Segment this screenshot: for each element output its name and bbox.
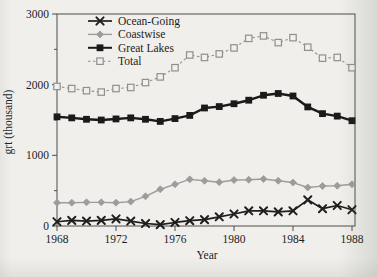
total-marker <box>246 35 252 41</box>
total-marker <box>54 83 60 89</box>
great-lakes-marker <box>304 104 311 111</box>
great-lakes-marker <box>54 113 61 120</box>
legend-label-total: Total <box>118 55 141 67</box>
x-tick-label: 1988 <box>341 233 364 245</box>
x-tick-label: 1972 <box>105 233 128 245</box>
x-tick-label: 1980 <box>223 233 246 245</box>
coastwise-marker <box>201 177 208 184</box>
great-lakes-marker <box>201 105 208 112</box>
x-tick-label: 1984 <box>282 233 305 245</box>
legend-label-coastwise: Coastwise <box>118 28 165 40</box>
great-lakes-marker <box>142 116 149 123</box>
coastwise-marker <box>142 193 149 200</box>
ocean-going-marker <box>304 196 311 203</box>
coastwise-marker <box>54 199 61 206</box>
total-marker <box>83 87 89 93</box>
coastwise-marker <box>245 176 252 183</box>
line-chart-figure: 0100020003000196819721976198019841988 Oc… <box>0 0 377 277</box>
coastwise-marker <box>334 182 341 189</box>
great-lakes-marker <box>98 117 105 124</box>
x-tick-label: 1968 <box>46 233 69 245</box>
great-lakes-marker <box>186 112 193 119</box>
great-lakes-marker <box>245 97 252 104</box>
great-lakes-marker <box>113 116 120 123</box>
coastwise-marker <box>304 184 311 191</box>
y-axis-title: grt (thousand) <box>2 89 15 154</box>
y-tick-label: 3000 <box>26 8 49 20</box>
coastwise-marker <box>113 199 120 206</box>
total-marker <box>216 51 222 57</box>
legend-item-coastwise: Coastwise <box>88 28 165 40</box>
total-marker <box>98 89 104 95</box>
great-lakes-marker <box>231 100 238 107</box>
great-lakes-marker <box>275 90 282 97</box>
coastwise-marker <box>172 181 179 188</box>
coastwise-marker <box>349 181 356 188</box>
total-marker <box>69 85 75 91</box>
total-marker <box>231 45 237 51</box>
great-lakes-marker <box>349 117 356 124</box>
great-lakes-marker <box>216 103 223 110</box>
coastwise-marker <box>290 179 297 186</box>
coastwise-marker <box>319 183 326 190</box>
total-marker <box>334 54 340 60</box>
legend-item-great-lakes: Great Lakes <box>88 42 174 54</box>
great-lakes-marker <box>83 116 90 123</box>
coastwise-marker <box>186 176 193 183</box>
legend-great-lakes-marker <box>97 44 104 51</box>
total-marker <box>172 65 178 71</box>
total-marker <box>157 74 163 80</box>
coastwise-marker <box>275 177 282 184</box>
great-lakes-marker <box>260 92 267 99</box>
legend-label-ocean-going: Ocean-Going <box>118 15 180 28</box>
total-marker <box>201 54 207 60</box>
legend-coastwise-marker <box>97 31 104 38</box>
legend-label-great-lakes: Great Lakes <box>118 42 174 54</box>
great-lakes-marker <box>172 115 179 122</box>
total-marker <box>305 44 311 50</box>
total-marker <box>142 79 148 85</box>
coastwise-marker <box>83 199 90 206</box>
y-tick-label: 0 <box>43 220 49 232</box>
total-marker <box>319 55 325 61</box>
x-axis-title: Year <box>196 249 217 261</box>
total-marker <box>275 39 281 45</box>
great-lakes-marker <box>319 110 326 117</box>
coastwise-marker <box>231 177 238 184</box>
great-lakes-marker <box>127 114 134 121</box>
total-marker <box>349 65 355 71</box>
y-tick-label: 1000 <box>26 149 49 161</box>
legend-item-total: Total <box>88 55 141 67</box>
legend-item-ocean-going: Ocean-Going <box>88 15 180 28</box>
total-marker <box>260 33 266 39</box>
total-marker <box>290 34 296 40</box>
great-lakes-marker <box>290 93 297 100</box>
total-marker <box>187 52 193 58</box>
coastwise-marker <box>216 179 223 186</box>
coastwise-marker <box>68 199 75 206</box>
great-lakes-marker <box>68 114 75 121</box>
total-marker <box>113 85 119 91</box>
total-marker <box>128 84 134 90</box>
legend-total-marker <box>97 58 103 64</box>
great-lakes-marker <box>157 118 164 125</box>
y-tick-label: 2000 <box>26 79 49 91</box>
x-tick-label: 1976 <box>164 233 187 245</box>
chart-canvas: 0100020003000196819721976198019841988 Oc… <box>0 0 377 277</box>
great-lakes-marker <box>334 113 341 120</box>
coastwise-marker <box>127 198 134 205</box>
coastwise-marker <box>98 199 105 206</box>
coastwise-marker <box>157 186 164 193</box>
coastwise-marker <box>260 176 267 183</box>
